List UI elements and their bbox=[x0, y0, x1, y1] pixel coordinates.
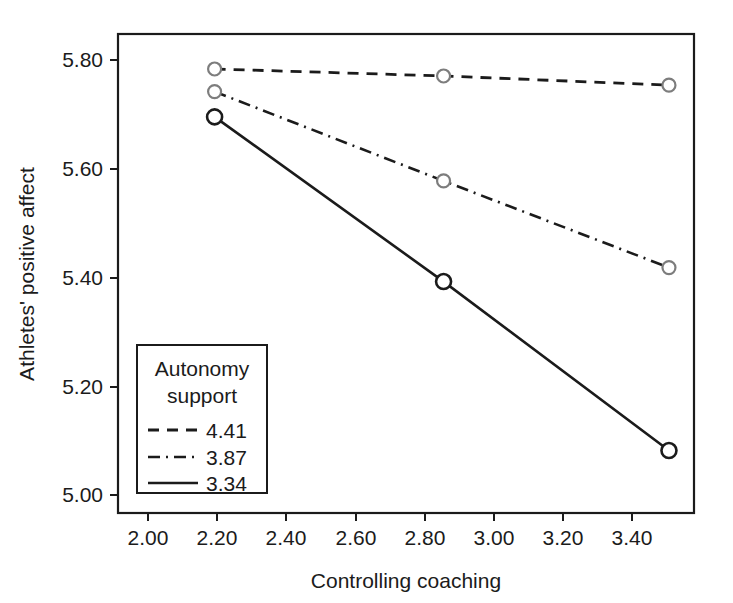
series-markers-group bbox=[207, 62, 676, 458]
y-tick-label-5-00: 5.00 bbox=[62, 483, 103, 506]
data-point-marker bbox=[207, 109, 222, 124]
x-tick-label-3-00: 3.00 bbox=[474, 526, 515, 549]
legend-title-line-2: support bbox=[167, 384, 237, 407]
y-axis-tick-labels: 5.80 5.60 5.40 5.20 5.00 bbox=[62, 48, 103, 506]
x-tick-label-2-00: 2.00 bbox=[128, 526, 169, 549]
x-axis-tick-labels: 2.00 2.20 2.40 2.60 2.80 3.00 3.20 3.40 bbox=[128, 526, 653, 549]
y-tick-label-5-20: 5.20 bbox=[62, 375, 103, 398]
series-group bbox=[215, 69, 669, 451]
chart-figure: 5.80 5.60 5.40 5.20 5.00 2.00 2.20 2.40 … bbox=[0, 0, 733, 603]
legend: Autonomy support 4.41 3.87 3.34 bbox=[137, 345, 267, 495]
data-point-marker bbox=[661, 443, 676, 458]
legend-label-3-34: 3.34 bbox=[206, 472, 247, 495]
legend-label-3-87: 3.87 bbox=[206, 446, 247, 469]
y-tick-label-5-80: 5.80 bbox=[62, 48, 103, 71]
data-point-marker bbox=[208, 85, 221, 98]
y-axis-ticks bbox=[110, 60, 118, 495]
chart-canvas: 5.80 5.60 5.40 5.20 5.00 2.00 2.20 2.40 … bbox=[0, 0, 733, 603]
data-point-marker bbox=[437, 174, 450, 187]
x-tick-label-2-80: 2.80 bbox=[405, 526, 446, 549]
data-point-marker bbox=[662, 261, 675, 274]
y-axis-title: Athletes' positive affect bbox=[15, 167, 38, 381]
data-point-marker bbox=[437, 69, 450, 82]
x-tick-label-2-20: 2.20 bbox=[197, 526, 238, 549]
data-point-marker bbox=[662, 79, 675, 92]
y-tick-label-5-40: 5.40 bbox=[62, 266, 103, 289]
legend-label-4-41: 4.41 bbox=[206, 419, 247, 442]
y-tick-label-5-60: 5.60 bbox=[62, 157, 103, 180]
x-tick-label-3-20: 3.20 bbox=[543, 526, 584, 549]
x-tick-label-3-40: 3.40 bbox=[612, 526, 653, 549]
x-tick-label-2-60: 2.60 bbox=[336, 526, 377, 549]
x-axis-title: Controlling coaching bbox=[311, 569, 501, 592]
data-point-marker bbox=[436, 274, 451, 289]
data-point-marker bbox=[208, 62, 221, 75]
x-axis-ticks bbox=[148, 513, 632, 521]
legend-title-line-1: Autonomy bbox=[155, 357, 250, 380]
x-tick-label-2-40: 2.40 bbox=[266, 526, 307, 549]
